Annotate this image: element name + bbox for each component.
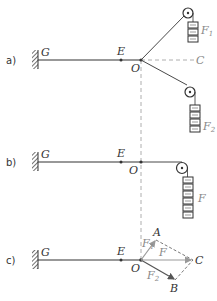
label-E: E xyxy=(116,147,125,160)
weights-F xyxy=(183,177,193,218)
weights-F1 xyxy=(188,22,198,42)
point-E xyxy=(120,59,123,62)
string-2 xyxy=(141,60,187,85)
label-O: O xyxy=(131,62,140,75)
label-F: F xyxy=(197,192,206,205)
panel-a-tag: a) xyxy=(6,55,16,66)
weights-F2 xyxy=(190,105,200,132)
string-1 xyxy=(141,16,184,60)
label-O: O xyxy=(129,164,138,177)
label-F2: F2 xyxy=(202,120,216,134)
label-E: E xyxy=(116,45,125,58)
panel-b: b) G E O F xyxy=(6,147,206,218)
label-F1: F1 xyxy=(141,237,154,251)
label-A: A xyxy=(152,226,161,239)
pulley-icon xyxy=(183,8,193,22)
label-G: G xyxy=(41,246,50,259)
label-F: F xyxy=(158,246,167,259)
label-E: E xyxy=(116,245,125,258)
label-G: G xyxy=(41,46,50,59)
wall-icon xyxy=(32,152,38,171)
wall-icon xyxy=(32,250,38,269)
label-B: B xyxy=(169,282,178,295)
force-diagram: a) G E O C F1 xyxy=(0,0,217,301)
point-E xyxy=(120,161,123,164)
panel-b-tag: b) xyxy=(6,157,16,168)
panel-a: a) G E O C F1 xyxy=(6,8,216,134)
label-C: C xyxy=(196,54,205,67)
panel-c: c) G E O A C B F1 F F2 xyxy=(6,226,204,295)
label-G: G xyxy=(41,148,50,161)
point-E xyxy=(120,259,123,262)
wall-icon xyxy=(32,50,38,69)
label-C: C xyxy=(195,254,204,267)
pulley-icon xyxy=(177,163,188,178)
label-O: O xyxy=(131,262,140,275)
dashed-side-BC xyxy=(175,260,193,280)
label-F2: F2 xyxy=(146,269,160,283)
pulley-icon xyxy=(185,87,195,105)
label-F1: F1 xyxy=(200,24,213,38)
panel-c-tag: c) xyxy=(6,255,15,266)
